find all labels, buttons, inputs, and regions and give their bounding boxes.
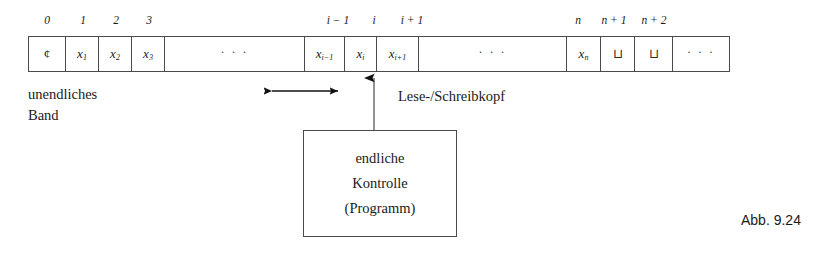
cell-xn: xn (567, 37, 601, 71)
cell-ellipsis-right-glyph: · · · (687, 45, 715, 60)
read-write-head-label: Lese-/Schreibkopf (398, 88, 505, 105)
tape-annotation-line-1: unendliches (28, 84, 97, 105)
cell-ellipsis-middle: · · · (419, 37, 567, 71)
finite-control-box: endliche Kontrolle (Programm) (303, 130, 457, 237)
tape-index-label: 2 (113, 14, 119, 26)
tape-index-label: i − 1 (327, 14, 349, 26)
cell-xn-subscript: n (584, 53, 588, 62)
cell-xi-minus-1-subscript: i−1 (322, 53, 334, 62)
tape-index-label: 0 (44, 14, 50, 26)
cell-x1-subscript: 1 (83, 53, 87, 62)
tape-annotation: unendliches Band (28, 84, 97, 126)
figure-canvas: 0123i − 1ii + 1nn + 1n + 2 ¢x1x2x3· · ·x… (0, 0, 832, 257)
tape-index-label: 1 (80, 14, 86, 26)
figure-caption: Abb. 9.24 (741, 212, 801, 228)
cell-ellipsis-middle-glyph: · · · (479, 45, 507, 60)
cell-xi-plus-1-subscript: i+1 (395, 53, 407, 62)
cell-ellipsis-left-glyph: · · · (221, 45, 249, 60)
cell-x2: x2 (99, 37, 132, 71)
cell-endmarker-glyph: ¢ (44, 46, 51, 62)
infinite-tape: ¢x1x2x3· · ·xi−1xixi+1· · ·xn⊔⊔· · · (28, 36, 730, 72)
tape-index-label: n + 1 (601, 14, 626, 26)
cell-x3: x3 (132, 37, 165, 71)
cell-xi: xi (345, 37, 377, 71)
cell-xi-minus-1: xi−1 (305, 37, 345, 71)
cell-ellipsis-right: · · · (673, 37, 729, 71)
control-line-2: Kontrolle (352, 171, 408, 196)
tape-index-label: 3 (146, 14, 152, 26)
tape-index-label: n (575, 14, 581, 26)
cell-ellipsis-left: · · · (165, 37, 305, 71)
cell-x1: x1 (66, 37, 99, 71)
tape-index-label: i (372, 14, 375, 26)
tape-annotation-line-2: Band (28, 105, 97, 126)
control-line-3: (Programm) (345, 196, 416, 221)
cell-x3-subscript: 3 (149, 53, 153, 62)
cell-xi-plus-1: xi+1 (377, 37, 419, 71)
cell-x2-subscript: 2 (116, 53, 120, 62)
cell-blank-1: ⊔ (601, 37, 635, 71)
control-line-1: endliche (355, 146, 404, 171)
cell-endmarker: ¢ (29, 37, 66, 71)
tape-index-label: i + 1 (401, 14, 423, 26)
cell-blank-2: ⊔ (635, 37, 673, 71)
cell-blank-2-glyph: ⊔ (649, 46, 659, 62)
cell-xi-subscript: i (362, 53, 364, 62)
cell-blank-1-glyph: ⊔ (613, 46, 623, 62)
tape-index-label: n + 2 (641, 14, 666, 26)
